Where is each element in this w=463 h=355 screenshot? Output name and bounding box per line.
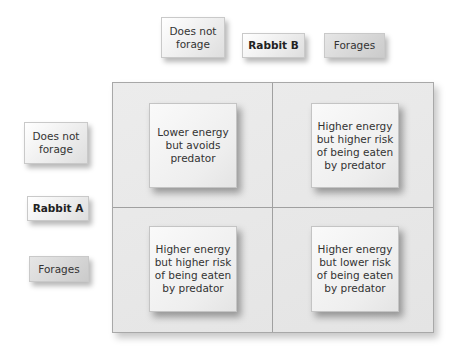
row-label-does-not-forage: Does not forage (24, 122, 88, 164)
col-player-label-rabbit-b: Rabbit B (242, 33, 305, 58)
cell-neither-forages: Lower energy but avoids predator (149, 103, 237, 188)
cell-both-forage: Higher energy but lower risk of being ea… (311, 226, 399, 312)
row-player-label-rabbit-a: Rabbit A (27, 196, 89, 221)
payoff-matrix: Lower energy but avoids predator Higher … (112, 82, 434, 333)
col-label-does-not-forage: Does not forage (161, 17, 225, 58)
cell-only-b-forages: Higher energy but higher risk of being e… (311, 103, 399, 188)
row-label-forages: Forages (29, 256, 89, 282)
col-label-forages: Forages (324, 33, 385, 58)
grid-horizontal-divider (113, 207, 433, 208)
cell-only-a-forages: Higher energy but higher risk of being e… (149, 226, 237, 312)
